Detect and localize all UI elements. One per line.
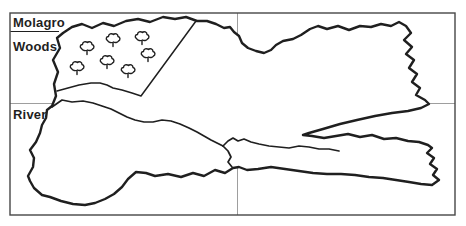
molagro-map-canvas: Molagro Woods River	[0, 0, 466, 226]
legend-label-river: River	[13, 107, 47, 122]
map-figure: Molagro Woods River	[0, 0, 466, 226]
legend-label-woods: Woods	[13, 39, 57, 54]
map-title: Molagro	[13, 15, 65, 30]
